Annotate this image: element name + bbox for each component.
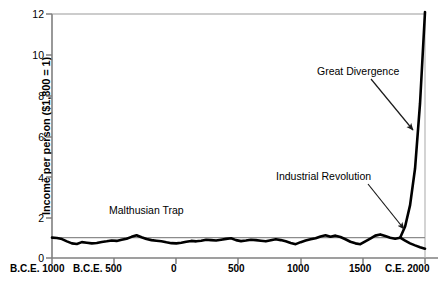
- series-line-poor-countries: [400, 238, 425, 249]
- chart-figure: Income per person ($1,800 = 1) 12 10 8 6…: [0, 0, 447, 288]
- series-line-world-income: [52, 12, 425, 244]
- plot-area: [0, 0, 447, 288]
- x-tick-marks: [52, 258, 425, 264]
- arrow-great-divergence: [371, 79, 413, 130]
- figure-caption: [6, 280, 446, 288]
- arrow-industrial-revolution: [368, 184, 404, 229]
- y-tick-marks: [46, 14, 52, 258]
